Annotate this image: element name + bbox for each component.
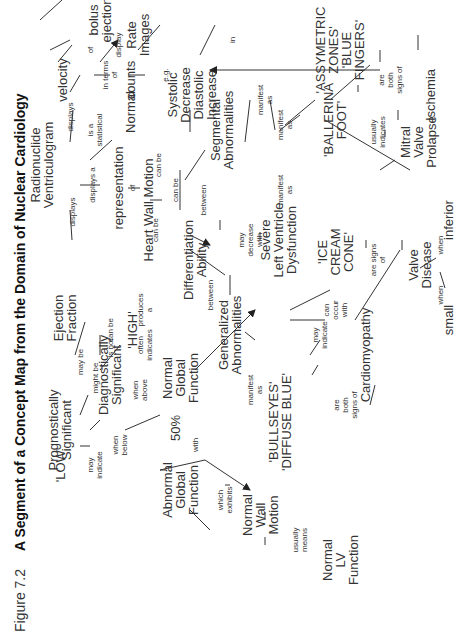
concept-normal-global-function: Normal Global Function [161,353,200,403]
link-are-signs-of: are signs of [369,244,387,276]
concept-representation: representation [112,146,125,229]
concept-valve-disease: Valve Disease [407,242,433,289]
concept-ballerina-foot: 'BALLERINA FOOT' [322,83,348,157]
concept-bolus-ejection: bolus ejection [87,0,113,42]
concept-ischemia: Ischemia [424,69,437,121]
link-might-be: might be [91,363,100,394]
concept-normal-lv-function: Normal LV Function [321,535,360,585]
rotated-figure: Figure 7.2 A Segment of a Concept Map fr… [0,0,466,640]
concept-fifty-percent: 50% [169,415,182,441]
concept-bullseyes: 'BULLSEYES' 'DIFFUSE BLUE' [267,373,293,471]
link-often-indicates: often indicates [136,329,154,361]
link-manifest-as-2: manifest as [276,110,294,140]
link-may-be: may be [76,349,85,375]
link-in-terms-of: in terms of [101,61,119,89]
link-may-indicate-low: may indicate [86,451,104,479]
link-hwm-can-be-diff: can be [171,178,180,202]
link-hwm-can-be-normal: can be [154,153,163,177]
concept-asymmetric-zones: 'ASSYMETRIC ZONES' 'BLUE FINGERS' [314,7,366,94]
concept-radionuclide-ventriculogram: Radionuclide Ventriculogram [29,122,55,209]
concept-normal-wall-motion: Normal Wall Motion [241,494,280,536]
concept-ejection-fraction: Ejection Fraction [52,295,78,342]
link-when-above: when above [131,379,149,401]
link-manifest-as-1: manifest as [256,85,274,115]
link-rep-of: of [128,185,137,192]
link-is-a-statistical: is a statistical [86,114,104,147]
link-between-seg: between [199,185,208,215]
concept-segmental-abnormalities: Segmental Abnormalities [209,91,235,170]
concept-velocity: velocity [56,58,69,101]
link-rv-displays-a: displays a [88,167,97,203]
link-display: display [114,33,123,58]
link-when-below: when below [111,435,129,456]
concept-cardiomyopathy: Cardiomyopathy [359,308,372,403]
concept-abnormal-global-function: Abnormal Global Function [161,462,200,518]
concept-normal-wall: Normal [124,91,137,133]
link-when-small: when [436,285,445,304]
link-are-both-signs-of-2: are both signs of [332,391,359,419]
link-can-be-high: can be [106,318,115,342]
link-when-inferior: when [436,235,445,254]
link-hwm-can-be-left: can be [151,218,160,242]
link-rv-displays-ef: displays [68,198,77,227]
concept-low: 'LOW' [54,448,67,483]
link-of-velocity: of [86,47,95,54]
link-produces-a: produces a [136,294,154,327]
concept-inferior: inferior [442,200,455,240]
link-manifest-as-gen: manifest as [246,375,264,405]
concept-differentiation-ability: Differentiation Ability [182,220,208,300]
link-in: in [228,37,237,43]
link-may-decrease-with: may decrease with [237,224,264,257]
link-rv-displays-velocity: displays [66,103,75,132]
link-which-exhibits: which exhibits [216,486,234,513]
link-eg: e.g. [161,68,170,81]
concept-small: small [442,305,455,335]
link-usually-indicates: usually indicates [369,116,387,148]
link-between-gen: between [206,280,215,310]
link-may-indicate-cardio: may indicate [311,321,329,349]
concept-rate-images: Rate Images [125,14,151,57]
concept-ice-cream-cone: 'ICE CREAM CONE' [316,229,355,276]
concept-mitral-valve-prolapse: Mitral Valve Prolapse [399,116,438,167]
link-can-occur-with: can occur with [322,300,349,320]
link-manifest-as-3: manifest as [276,175,294,205]
link-are-both-signs-of-1: are both signs of [377,66,404,94]
concept-generalized-abnormalities: Generalized Abnormalities [217,296,243,375]
concept-severe-lv-dysfunction: Severe Left Ventricle Dysfunction [259,202,298,277]
link-with: with [191,438,200,452]
link-usually-means: usually means [291,528,309,553]
